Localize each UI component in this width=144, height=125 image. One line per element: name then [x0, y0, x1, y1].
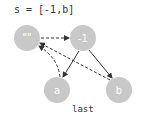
node-b-label: b: [116, 85, 122, 96]
node-minus1: -1: [70, 25, 96, 51]
node-empty: "": [14, 25, 40, 51]
edge-b-to-empty: [40, 43, 110, 80]
node-b: b: [106, 77, 132, 103]
node-a-label: a: [54, 85, 60, 96]
edge-minus1-to-a: [63, 51, 79, 77]
last-pointer-caption: last: [72, 104, 94, 114]
edge-a-to-empty: [39, 46, 60, 77]
node-a: a: [44, 77, 70, 103]
edge-minus1-to-b: [89, 50, 112, 78]
node-minus1-label: -1: [78, 33, 88, 44]
node-empty-label: "": [22, 32, 31, 43]
